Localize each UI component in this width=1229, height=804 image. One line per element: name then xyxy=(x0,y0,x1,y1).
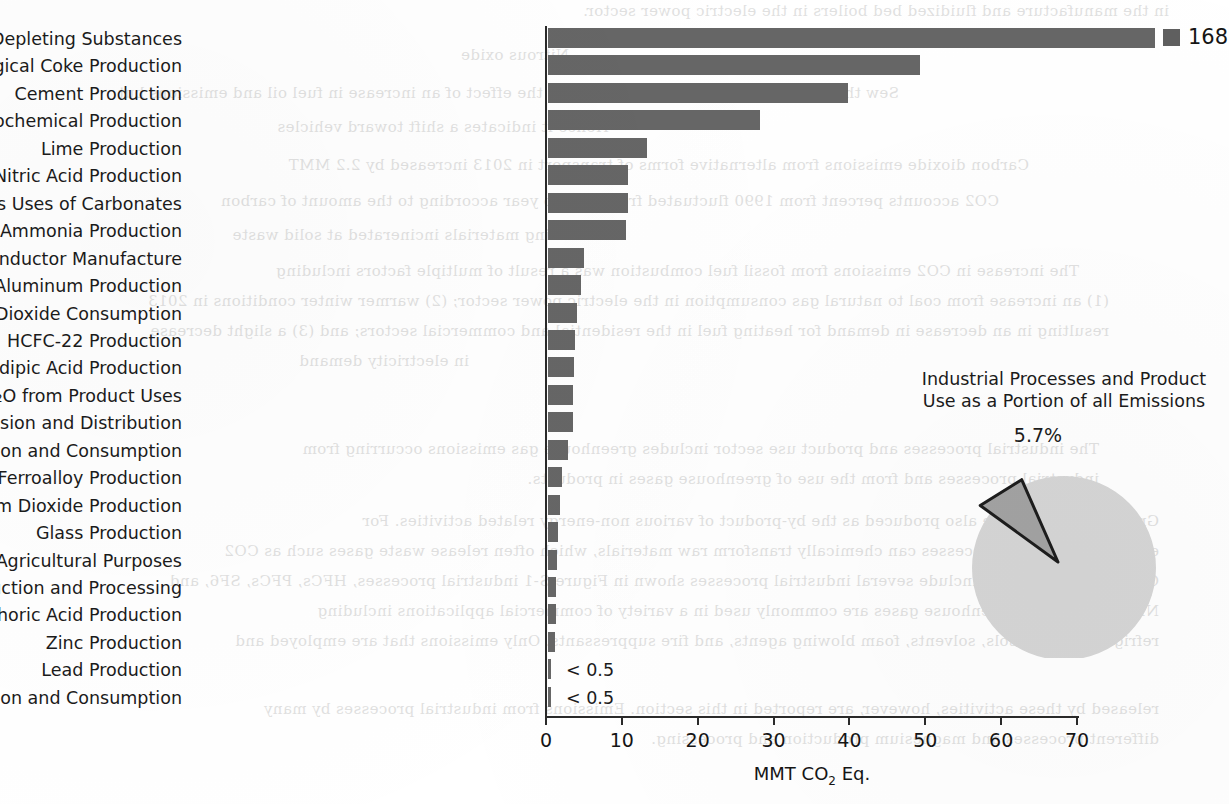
x-axis-tick-label: 50 xyxy=(913,729,937,751)
x-axis-tick xyxy=(1076,717,1078,725)
pie-graphic xyxy=(908,458,1220,658)
x-axis-line xyxy=(545,716,1079,718)
bar xyxy=(548,604,556,624)
bar xyxy=(548,330,575,350)
category-label: Titanium Dioxide Production xyxy=(0,496,182,516)
pie-title-line-1: Industrial Processes and Product xyxy=(908,368,1220,390)
category-label: Aluminum Production xyxy=(0,276,182,296)
x-axis-tick xyxy=(621,717,623,725)
x-axis-tick xyxy=(773,717,775,725)
bar xyxy=(548,495,560,515)
bar xyxy=(548,577,556,597)
bar xyxy=(548,687,551,707)
category-label: Glass Production xyxy=(36,523,182,543)
x-axis-tick xyxy=(924,717,926,725)
bar xyxy=(548,83,848,103)
category-label: Electrical Transmission and Distribution xyxy=(0,413,182,433)
bar xyxy=(548,632,555,652)
category-label: Semiconductor Manufacture xyxy=(0,249,182,269)
pie-svg xyxy=(908,458,1220,658)
overflow-bar-value: 168 xyxy=(1188,25,1228,49)
category-label: Phosphoric Acid Production xyxy=(0,605,182,625)
x-axis-tick xyxy=(545,717,547,725)
horizontal-bar-chart: Substitution of Ozone Depleting Substanc… xyxy=(0,0,1229,804)
pie-chart-inset: Industrial Processes and Product Use as … xyxy=(908,368,1220,698)
bar xyxy=(548,275,581,295)
x-axis-tick-label: 30 xyxy=(761,729,785,751)
bar xyxy=(548,110,760,130)
bar xyxy=(548,55,920,75)
bar xyxy=(548,550,557,570)
bar xyxy=(548,522,558,542)
category-label: Carbon Dioxide Consumption xyxy=(0,304,182,324)
bar xyxy=(548,357,574,377)
pie-title-line-2: Use as a Portion of all Emissions xyxy=(908,390,1220,412)
x-axis-tick-label: 60 xyxy=(989,729,1013,751)
bar xyxy=(548,385,573,405)
category-label: Ammonia Production xyxy=(0,221,182,241)
bar xyxy=(548,28,1155,48)
bar xyxy=(548,138,647,158)
category-label: N₂O from Product Uses xyxy=(0,386,182,406)
category-label: Iron and Steel Production & Metallurgica… xyxy=(0,56,182,76)
bar xyxy=(548,303,577,323)
category-label: Substitution of Ozone Depleting Substanc… xyxy=(0,29,182,49)
category-label: Petrochemical Production xyxy=(0,111,182,131)
x-axis-tick xyxy=(1000,717,1002,725)
x-axis-tick xyxy=(848,717,850,725)
pie-slice-value-label: 5.7% xyxy=(978,424,1098,446)
category-label: Soda Ash Production and Consumption xyxy=(0,441,182,461)
x-axis-tick-label: 0 xyxy=(540,729,552,751)
category-label: HCFC-22 Production xyxy=(7,331,182,351)
pie-chart-title: Industrial Processes and Product Use as … xyxy=(908,368,1220,412)
category-label: Magnesium Production and Processing xyxy=(0,578,182,598)
category-label: Other Process Uses of Carbonates xyxy=(0,194,182,214)
category-label: Cement Production xyxy=(15,84,182,104)
x-axis-tick xyxy=(697,717,699,725)
x-axis-tick-label: 20 xyxy=(686,729,710,751)
bar xyxy=(548,220,626,240)
bar-value-note: < 0.5 xyxy=(566,688,614,708)
bar xyxy=(548,412,573,432)
category-label: Urea Consumption for Non-Agricultural Pu… xyxy=(0,551,182,571)
category-label: Lime Production xyxy=(41,139,182,159)
category-label: Ferroalloy Production xyxy=(0,468,182,488)
bar-value-note: < 0.5 xyxy=(566,660,614,680)
category-label: Zinc Production xyxy=(46,633,182,653)
bar xyxy=(548,440,568,460)
x-axis-tick-label: 40 xyxy=(837,729,861,751)
x-axis-title: MMT CO2 Eq. xyxy=(754,763,870,788)
bar xyxy=(548,467,562,487)
bar xyxy=(548,248,584,268)
x-axis-tick-label: 70 xyxy=(1065,729,1089,751)
bar xyxy=(548,165,628,185)
y-axis-line xyxy=(545,26,547,717)
category-label: Nitric Acid Production xyxy=(0,166,182,186)
category-label: Silicon Carbide Production and Consumpti… xyxy=(0,688,182,708)
x-axis-tick-label: 10 xyxy=(610,729,634,751)
bar xyxy=(548,193,628,213)
overflow-bar-marker xyxy=(1163,29,1180,46)
category-label: Lead Production xyxy=(41,660,182,680)
category-label: Adipic Acid Production xyxy=(0,358,182,378)
bar xyxy=(548,659,551,679)
